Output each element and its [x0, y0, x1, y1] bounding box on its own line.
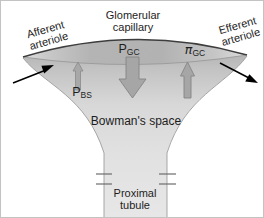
pgc-label: PGC [118, 44, 139, 57]
proximal-tubule-label-line1: Proximal [114, 187, 157, 199]
pigc-label-base: π [185, 42, 193, 57]
pbs-label: PBS [72, 87, 92, 100]
glomerular-capillary-label: Glomerular capillary [106, 9, 160, 33]
pigc-label-subscript: GC [192, 48, 205, 58]
proximal-tubule-label-line2: tubule [114, 199, 157, 211]
proximal-tubule-label: Proximal tubule [114, 187, 157, 211]
bowmans-space-label: Bowman's space [91, 116, 181, 128]
pbs-label-subscript: BS [81, 90, 92, 100]
glomerular-capillary-label-line1: Glomerular [106, 9, 160, 21]
pigc-label: πGC [185, 44, 205, 58]
glomerular-capillary-label-line2: capillary [106, 21, 160, 33]
glomerular-filtration-diagram: Afferent arteriole Glomerular capillary … [0, 0, 264, 218]
pgc-label-subscript: GC [127, 47, 140, 57]
